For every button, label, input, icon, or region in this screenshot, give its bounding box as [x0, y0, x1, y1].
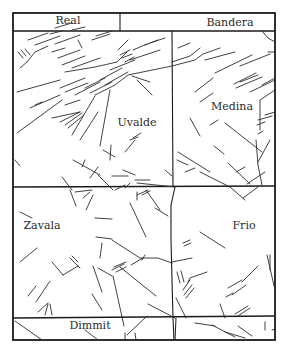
fault-map: Real Bandera Uvalde Medina Zavala Frio D…	[0, 0, 289, 354]
fault-lines	[15, 23, 275, 340]
county-borders	[13, 13, 275, 340]
county-label-uvalde: Uvalde	[117, 116, 156, 129]
border-zavala-dimmit	[13, 316, 275, 318]
border-dimmit-east	[175, 318, 176, 340]
county-label-frio: Frio	[232, 219, 255, 232]
county-label-bandera: Bandera	[206, 16, 254, 29]
county-labels: Real Bandera Uvalde Medina Zavala Frio D…	[23, 14, 255, 332]
outer-frame	[13, 13, 275, 340]
border-uvalde-medina	[172, 31, 173, 187]
county-label-dimmit: Dimmit	[69, 319, 111, 332]
border-uvalde-zavala	[13, 186, 275, 187]
county-label-medina: Medina	[211, 100, 253, 113]
county-label-real: Real	[56, 14, 81, 27]
county-label-zavala: Zavala	[23, 219, 60, 232]
map-canvas: Real Bandera Uvalde Medina Zavala Frio D…	[0, 0, 289, 354]
